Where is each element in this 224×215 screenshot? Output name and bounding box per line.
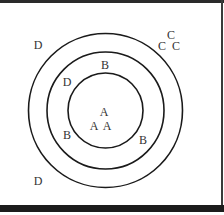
label-d: D [63, 75, 72, 89]
label-a: A [103, 119, 112, 133]
label-a: A [90, 119, 99, 133]
label-c: C [158, 39, 166, 53]
label-b: B [63, 128, 71, 142]
label-c: C [172, 39, 180, 53]
label-b: B [139, 133, 147, 147]
concentric-circles-diagram: DCCCBDAAABBD [0, 0, 224, 215]
label-d: D [34, 38, 43, 52]
label-b: B [101, 58, 109, 72]
label-d: D [34, 174, 43, 188]
label-a: A [100, 105, 109, 119]
